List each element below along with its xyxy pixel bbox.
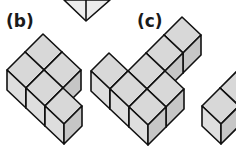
figure-d-partial [202,52,236,144]
figure-b [7,34,82,144]
figure-c [91,17,201,145]
label-b: (b) [6,11,34,31]
label-c: (c) [137,11,163,31]
figure-a-partial [64,0,110,21]
polycube-diagram: (b) (c) [0,0,236,152]
